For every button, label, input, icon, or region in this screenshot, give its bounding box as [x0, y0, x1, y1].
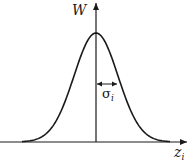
sigma-subscript: i	[111, 93, 114, 103]
x-axis-label: zi	[173, 144, 184, 162]
x-label-subscript: i	[181, 152, 184, 162]
y-axis-label: W	[72, 2, 88, 18]
sigma-symbol: σ	[102, 86, 111, 101]
gaussian-diagram: W σi zi	[0, 0, 192, 162]
sigma-label: σi	[102, 86, 114, 103]
